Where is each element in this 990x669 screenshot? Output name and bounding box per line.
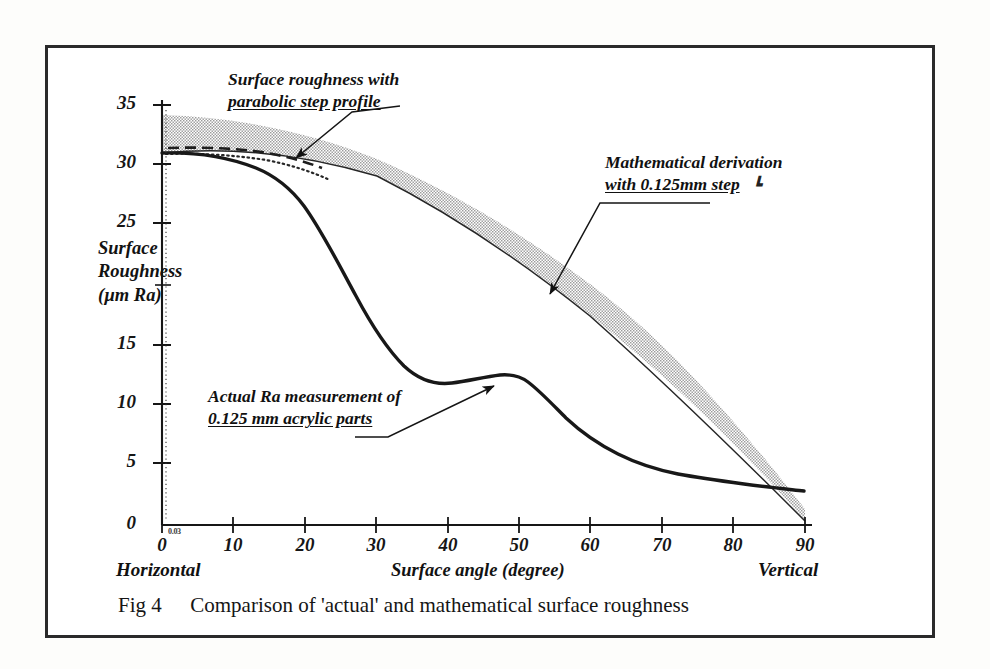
x-tick-label-60: 60 xyxy=(570,534,610,556)
y-tick-label-15: 15 xyxy=(96,332,136,354)
y-tick-label-30: 30 xyxy=(96,151,136,173)
y-axis-title-line3: (µm Ra) xyxy=(98,284,182,307)
y-axis-title-line1: Surface xyxy=(98,237,182,260)
y-axis-title-line2: Roughness xyxy=(98,260,182,283)
actual-measurement-annotation-line1: Actual Ra measurement of xyxy=(208,385,401,407)
x-tick-label-20: 20 xyxy=(285,534,325,556)
x-tick-label-0: 0 xyxy=(142,534,182,556)
actual-measurement-annotation: Actual Ra measurement of 0.125 mm acryli… xyxy=(208,385,401,430)
x-axis-endcap-vertical: Vertical xyxy=(758,559,818,581)
x-tick-label-90: 90 xyxy=(785,534,825,556)
x-axis-title: Surface angle (degree) xyxy=(391,559,565,582)
x-tick-label-10: 10 xyxy=(213,534,253,556)
figure-caption-text: Comparison of 'actual' and mathematical … xyxy=(190,593,689,617)
x-tick-label-40: 40 xyxy=(428,534,468,556)
figure-caption: Fig 4 Comparison of 'actual' and mathema… xyxy=(118,593,918,618)
actual-measurement-annotation-line2: 0.125 mm acrylic parts xyxy=(208,407,401,429)
parabolic-band-annotation-line1: Surface roughness with xyxy=(228,68,399,90)
y-tick-label-35: 35 xyxy=(96,92,136,114)
x-tick-label-80: 80 xyxy=(713,534,753,556)
x-tick-label-70: 70 xyxy=(642,534,682,556)
y-tick-label-25: 25 xyxy=(96,210,136,232)
x-tick-label-30: 30 xyxy=(356,534,396,556)
x-tick-label-50: 50 xyxy=(499,534,539,556)
y-tick-label-5: 5 xyxy=(96,450,136,472)
mathematical-derivation-annotation: Mathematical derivation with 0.125mm ste… xyxy=(605,151,782,196)
parabolic-band-annotation: Surface roughness with parabolic step pr… xyxy=(228,68,399,113)
mathematical-derivation-annotation-line2: with 0.125mm step xyxy=(605,174,740,194)
mathematical-derivation-annotation-line1: Mathematical derivation xyxy=(605,151,782,173)
scanned-page: 35 30 25 15 10 5 0 0.03 Surface Roughnes… xyxy=(0,0,990,669)
x-axis-endcap-horizontal: Horizontal xyxy=(116,559,200,581)
y-tick-label-0: 0 xyxy=(96,512,136,534)
y-tick-label-10: 10 xyxy=(96,391,136,413)
step-scan-artifact-glyph: ┗ xyxy=(752,177,761,193)
figure-caption-label: Fig 4 xyxy=(118,593,162,617)
y-axis-title: Surface Roughness (µm Ra) xyxy=(98,237,182,307)
mathematical-derivation-annotation-line2-wrap: with 0.125mm step ┗ xyxy=(605,173,782,195)
parabolic-band-annotation-line2: parabolic step profile xyxy=(228,90,399,112)
